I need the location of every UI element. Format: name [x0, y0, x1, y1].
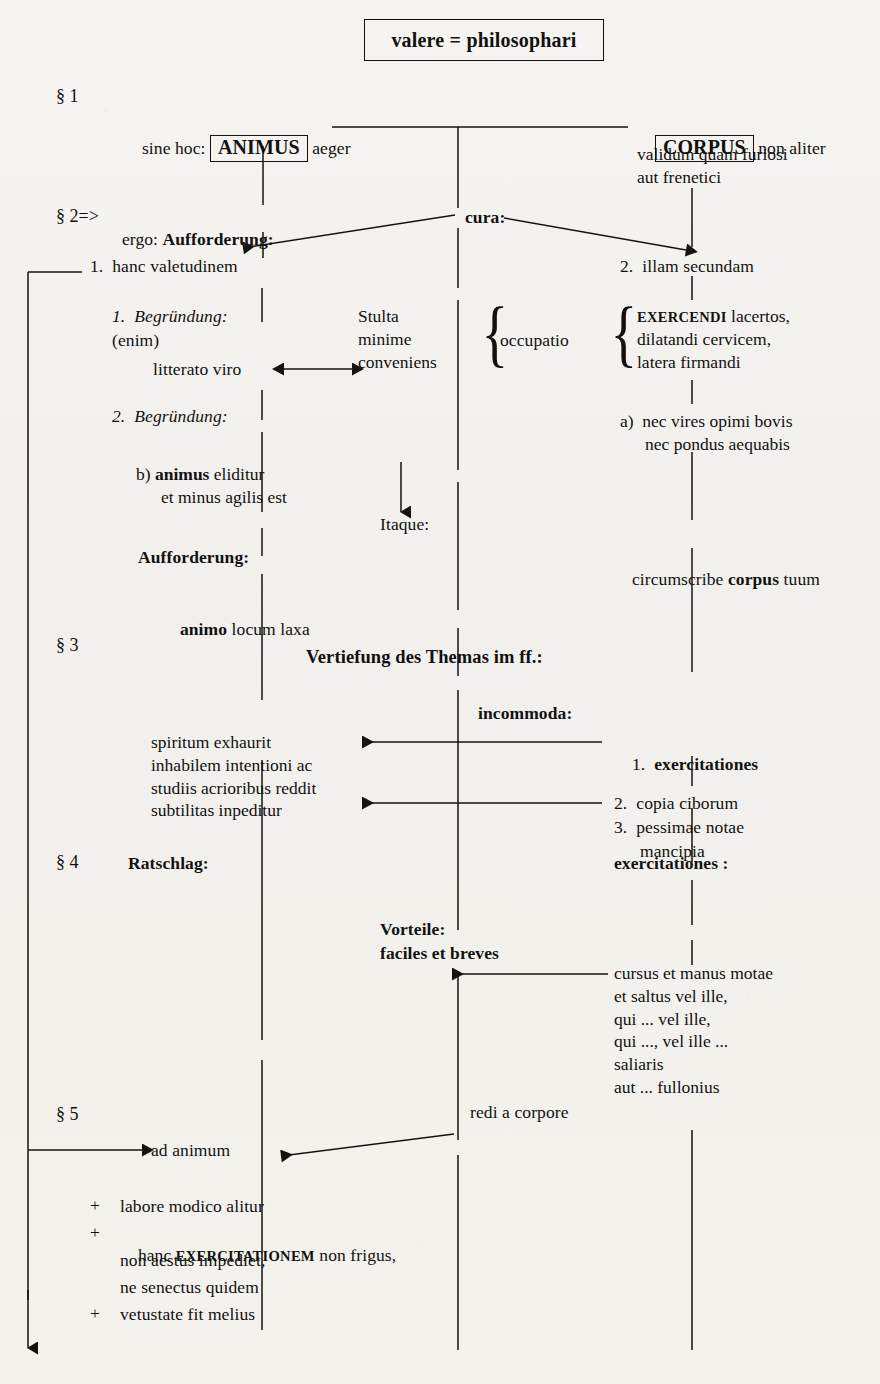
exercendi-block: EXERCENDI lacertos, dilatandi cervicem, …: [637, 305, 790, 373]
animus-phrase: sine hoc: ANIMUS aeger: [124, 113, 351, 184]
a-block: a) nec vires opimi bovis nec pondus aequ…: [620, 410, 793, 456]
effect-line-4: subtilitas inpeditur: [151, 799, 316, 822]
exerc-line-1: cursus et manus motae: [614, 962, 773, 985]
title-text: valere = philosophari: [391, 29, 576, 51]
b-marker: b): [136, 464, 151, 484]
section-marker-1: § 1: [56, 86, 79, 107]
effect-line-2: inhabilem intentioni ac: [151, 754, 316, 777]
aufforderung-label: Aufforderung:: [163, 229, 274, 249]
effect-line-1: spiritum exhaurit: [151, 731, 316, 754]
exercendi-line-1: EXERCENDI lacertos,: [637, 305, 790, 328]
cura-label: cura:: [465, 206, 505, 228]
stulta-line-3: conveniens: [358, 351, 437, 374]
item-2-illam-secundam: 2. illam secundam: [620, 255, 754, 277]
plus-item-2-line-2: non aestus impediet,: [120, 1249, 265, 1271]
animo-locum-laxa: animo locum laxa: [162, 596, 310, 662]
incommoda-item-1: 1. exercitationes: [614, 731, 758, 797]
plus-marker-2: +: [90, 1222, 100, 1243]
incommoda-item-2: 2. copia ciborum: [614, 792, 738, 814]
occupatio-label: occupatio: [500, 329, 569, 351]
plus-item-2-line-3: ne senectus quidem: [120, 1276, 259, 1298]
animo-rest: locum laxa: [227, 619, 310, 639]
section-marker-4: § 4: [56, 852, 79, 873]
vorteile-heading: Vorteile:: [380, 918, 445, 940]
brace-right-icon: {: [610, 296, 637, 370]
exerc-line-6: aut ... fullonius: [614, 1076, 773, 1099]
exerc-line-5: saliaris: [614, 1053, 773, 1076]
litterato-viro-label: litterato viro: [153, 358, 241, 380]
b-line-1: b) animus eliditur: [136, 463, 287, 486]
aufforderung-2-label: Aufforderung:: [138, 546, 249, 568]
itaque-label: Itaque:: [380, 513, 429, 535]
animus-keyword-box: ANIMUS: [210, 135, 308, 162]
exercendi-rest: lacertos,: [727, 306, 790, 326]
incommoda-effects-block: spiritum exhaurit inhabilem intentioni a…: [151, 731, 316, 822]
stulta-block: Stulta minime conveniens: [358, 305, 437, 373]
ad-animum-label: ad animum: [151, 1139, 230, 1161]
ratschlag-heading: Ratschlag:: [128, 852, 209, 874]
incommoda-item-3: 3. pessimae notae: [614, 816, 744, 838]
arrow-redi-a-corpore: [281, 1134, 454, 1156]
plus-item-3: vetustate fit melius: [120, 1303, 255, 1325]
diagram-page: valere = philosophari § 1 § 2=> § 3 § 4 …: [0, 0, 880, 1384]
stulta-line-2: minime: [358, 328, 437, 351]
b-animus-bold: animus: [155, 464, 209, 484]
incommoda-heading: incommoda:: [478, 702, 572, 724]
vertiefung-heading: Vertiefung des Themas im ff.:: [306, 646, 543, 669]
corpus-bold: corpus: [728, 569, 779, 589]
sine-hoc-label: sine hoc:: [142, 138, 206, 158]
plus-item-2-post: non frigus,: [315, 1245, 396, 1265]
exercendi-line-2: dilatandi cervicem,: [637, 328, 790, 351]
faciles-et-breves-label: faciles et breves: [380, 942, 499, 964]
arrow-cura-left: [243, 215, 455, 248]
b-block: b) animus eliditur et minus agilis est: [136, 463, 287, 509]
begruendung-1-label: 1. Begründung:: [112, 305, 228, 327]
begruendung-2-label: 2. Begründung:: [112, 405, 228, 427]
item-1-hanc-valetudinem: 1. hanc valetudinem: [90, 255, 238, 277]
plus-item-1: labore modico alitur: [120, 1195, 264, 1217]
exercendi-line-3: latera firmandi: [637, 351, 790, 374]
effect-line-3: studiis acrioribus reddit: [151, 777, 316, 800]
incommoda-item-1-num: 1.: [632, 754, 645, 774]
redi-a-corpore-label: redi a corpore: [470, 1101, 569, 1123]
circumscribe-post: tuum: [779, 569, 820, 589]
exercitationes-heading: exercitationes :: [614, 852, 729, 874]
exerc-line-4: qui ..., vel ille ...: [614, 1030, 773, 1053]
a-line-1: a) nec vires opimi bovis: [620, 410, 793, 433]
corpus-desc-line-2: aut freneticі: [637, 166, 788, 189]
arrow-cura-right: [504, 218, 686, 250]
section-marker-2: § 2=>: [56, 206, 99, 227]
b-line-2: et minus agilis est: [136, 486, 287, 509]
a-line-2: nec pondus aequabis: [620, 433, 793, 456]
title-box: valere = philosophari: [364, 19, 604, 61]
exerc-line-2: et saltus vel ille,: [614, 985, 773, 1008]
exercitationes-list: cursus et manus motae et saltus vel ille…: [614, 962, 773, 1099]
exercendi-smallcaps: EXERCENDI: [637, 309, 727, 325]
section-marker-3: § 3: [56, 635, 79, 656]
section-marker-5: § 5: [56, 1104, 79, 1125]
plus-marker-1: +: [90, 1195, 100, 1216]
circumscribe-pre: circumscribe: [632, 569, 728, 589]
aeger-label: aeger: [312, 138, 350, 158]
enim-label: (enim): [112, 329, 159, 351]
b-rest: eliditur: [209, 464, 264, 484]
plus-marker-3: +: [90, 1303, 100, 1324]
exerc-line-3: qui ... vel ille,: [614, 1008, 773, 1031]
ergo-label: ergo:: [122, 229, 158, 249]
incommoda-item-1-label: exercitationes: [654, 754, 758, 774]
animo-bold: animo: [180, 619, 227, 639]
corpus-description: validum quam furiosi aut freneticі: [637, 143, 788, 189]
circumscribe-corpus: circumscribe corpus tuum: [614, 546, 820, 612]
corpus-desc-line-1: validum quam furiosi: [637, 143, 788, 166]
stulta-line-1: Stulta: [358, 305, 437, 328]
